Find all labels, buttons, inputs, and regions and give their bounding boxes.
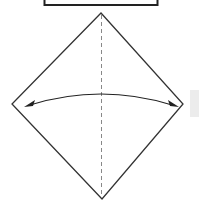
caption-box <box>45 0 158 5</box>
paper-square <box>12 13 183 199</box>
side-tab <box>190 90 199 117</box>
origami-diagram <box>0 0 199 209</box>
